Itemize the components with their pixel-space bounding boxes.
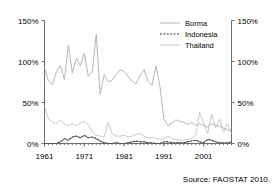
line-chart-svg: 0%50%100%150% 0%50%100%150% 196119711981… [0, 0, 276, 189]
x-axis-tick-label: 1961 [36, 152, 54, 161]
x-axis-tick-label: 2001 [195, 152, 213, 161]
y-axis-tick-label-right: 100% [238, 58, 258, 67]
x-axis-tick-label: 1991 [155, 152, 173, 161]
y-axis-tick-label-left: 150% [18, 17, 38, 26]
source-note: Source: FAOSTAT 2010. [183, 175, 270, 184]
y-axis-tick-label-left: 100% [18, 58, 38, 67]
legend-label-indonesia: Indonesia [185, 30, 218, 39]
x-axis-tick-label: 1971 [75, 152, 93, 161]
legend-label-burma: Burma [185, 19, 208, 28]
x-axis-tick-label: 1981 [115, 152, 133, 161]
y-axis-tick-label-right: 50% [238, 99, 254, 108]
y-axis-tick-label-left: 50% [22, 99, 38, 108]
y-axis-tick-label-right: 0% [238, 140, 250, 149]
chart-background [0, 0, 276, 189]
y-axis-tick-label-left: 0% [27, 140, 39, 149]
y-axis-tick-label-right: 150% [238, 17, 258, 26]
legend-label-thailand: Thailand [185, 41, 214, 50]
chart-figure: 0%50%100%150% 0%50%100%150% 196119711981… [0, 0, 276, 189]
